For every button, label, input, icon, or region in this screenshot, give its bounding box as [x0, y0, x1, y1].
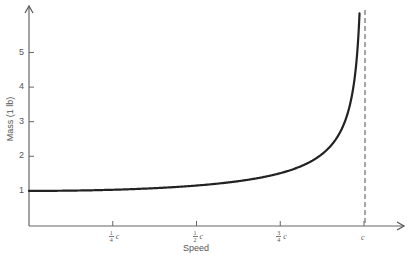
x-tick-label: 14c	[109, 230, 120, 243]
y-axis-label: Mass (1 lb)	[5, 89, 15, 149]
x-ticks	[113, 221, 364, 226]
x-tick-label: 12c	[193, 230, 204, 243]
x-tick-label: 34c	[276, 230, 287, 243]
y-tick-label: 2	[12, 150, 24, 160]
y-tick-label: 5	[12, 47, 24, 57]
mass-curve	[29, 13, 360, 190]
x-tick-label: c	[361, 233, 365, 242]
chart-canvas	[0, 0, 410, 265]
y-ticks	[29, 53, 34, 191]
y-tick-label: 1	[12, 185, 24, 195]
x-axis-label: Speed	[176, 243, 216, 253]
